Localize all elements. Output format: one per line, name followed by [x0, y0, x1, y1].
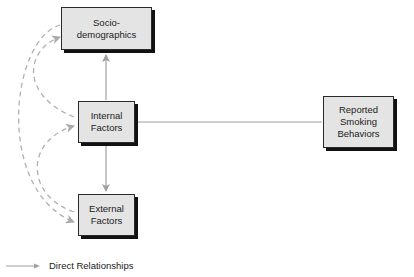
dashed-socio-to-external: [19, 25, 74, 222]
legend: Direct Relationships: [0, 260, 133, 271]
node-internal-factors: Internal Factors: [78, 101, 135, 143]
legend-direct-label: Direct Relationships: [49, 260, 133, 271]
legend-arrow-icon: [0, 263, 40, 269]
node-reported-smoking-behaviors: Reported Smoking Behaviors: [323, 96, 394, 148]
node-socio-demographics: Socio- demographics: [61, 7, 152, 50]
node-external-factors: External Factors: [78, 194, 135, 236]
